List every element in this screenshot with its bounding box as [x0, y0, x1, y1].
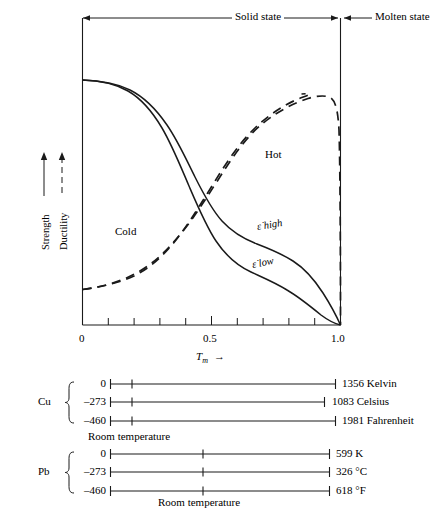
x-axis-ticks — [108, 316, 314, 325]
cu-scale-lines — [110, 379, 336, 426]
strength-curve-low — [83, 80, 341, 325]
strength-curve-high — [83, 80, 341, 325]
pb-right-value-fahrenheit: 618 °F — [336, 484, 366, 496]
solid-state-bracket — [83, 15, 338, 21]
x-tick-label-1_0: 1.0 — [331, 332, 345, 344]
cu-left-value-fahrenheit: –460 — [72, 414, 106, 426]
figure-root: Solid state Molten state Strength Ductil… — [0, 0, 441, 513]
cu-left-value-kelvin: 0 — [80, 377, 106, 389]
x-tick-label-0: 0 — [79, 332, 85, 344]
cu-right-value-celsius: 1083 Celsius — [332, 395, 389, 407]
pb-left-value-fahrenheit: –460 — [72, 484, 106, 496]
strength-axis-arrow — [41, 152, 47, 196]
ductility-axis-arrow — [59, 152, 65, 196]
scale-element-label-pb: Pb — [38, 465, 50, 477]
pb-room-temperature-label: Room temperature — [158, 496, 240, 508]
scale-element-label-cu: Cu — [38, 395, 51, 407]
ductility-curve-main — [83, 96, 341, 325]
solid-state-label: Solid state — [232, 10, 284, 22]
ductility-curve — [83, 94, 310, 290]
molten-state-bracket — [344, 15, 372, 21]
pb-right-value-kelvin: 599 K — [336, 447, 363, 459]
x-tick-label-0_5: 0.5 — [203, 332, 217, 344]
x-axis-title: Tm→ — [196, 350, 225, 365]
pb-left-value-celsius: –273 — [72, 465, 106, 477]
cu-left-value-celsius: –273 — [72, 395, 106, 407]
cu-right-value-fahrenheit: 1981 Fahrenheit — [342, 414, 414, 426]
y-axis-label-strength: Strength — [40, 214, 51, 250]
x-axis-title-arrow: → — [208, 350, 225, 362]
region-label-cold: Cold — [115, 225, 136, 237]
cu-room-temperature-label: Room temperature — [88, 430, 170, 442]
plot-axes — [83, 18, 342, 325]
molten-state-label: Molten state — [372, 10, 433, 22]
pb-right-value-celsius: 326 °C — [336, 465, 367, 477]
figure-svg — [0, 0, 441, 513]
y-axis-label-ductility: Ductility — [58, 213, 69, 250]
pb-left-value-kelvin: 0 — [80, 447, 106, 459]
region-label-hot: Hot — [265, 148, 282, 160]
pb-scale-lines — [110, 449, 330, 496]
cu-right-value-kelvin: 1356 Kelvin — [342, 377, 397, 389]
